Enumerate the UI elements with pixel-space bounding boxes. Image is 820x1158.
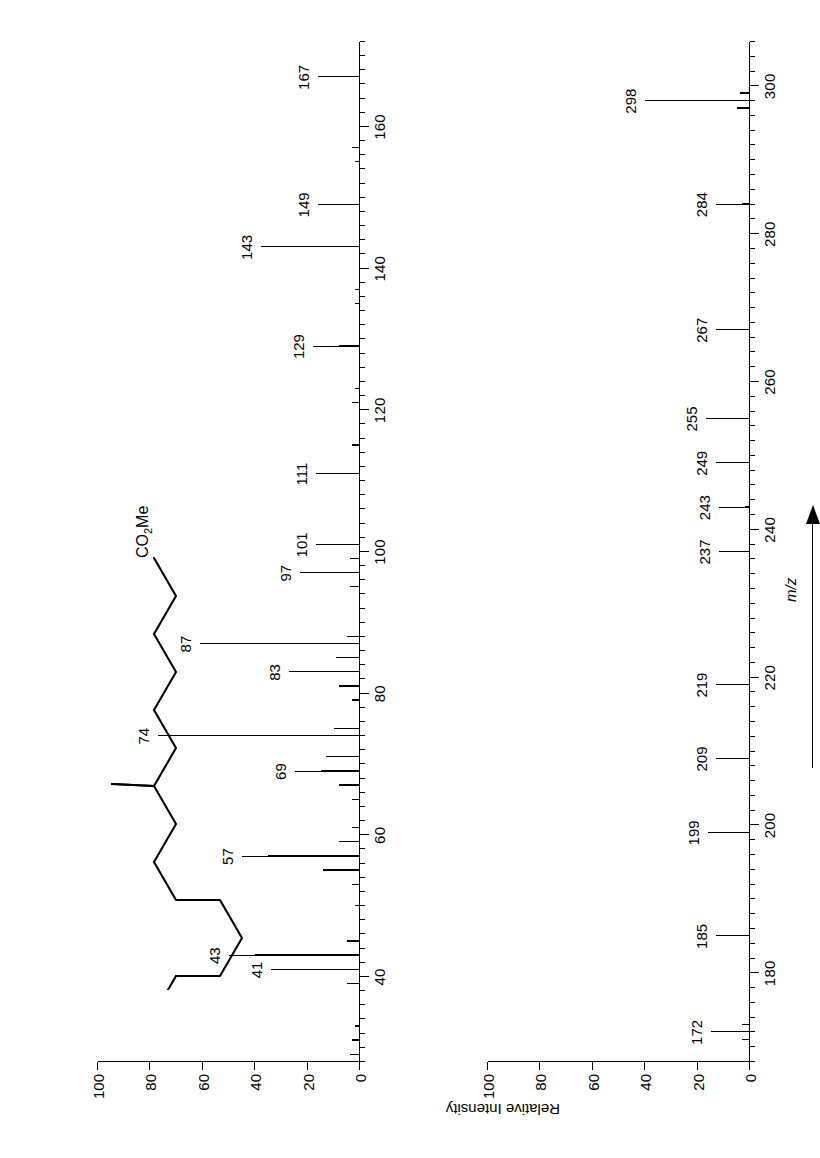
x-axis-minor-tick xyxy=(750,174,755,175)
x-axis-minor-tick xyxy=(360,69,365,70)
x-axis-minor-tick xyxy=(360,650,365,651)
x-axis-minor-tick xyxy=(750,736,755,737)
peak-label-leader xyxy=(318,76,344,77)
x-axis-major-tick xyxy=(750,529,759,530)
spectrum-peak xyxy=(742,1024,750,1025)
x-axis-minor-tick xyxy=(360,877,365,878)
y-axis-tick xyxy=(644,1062,645,1070)
x-axis-minor-tick xyxy=(360,310,365,311)
x-axis-minor-tick xyxy=(360,239,365,240)
x-axis-minor-tick xyxy=(750,765,755,766)
spectrum-peak xyxy=(326,572,360,573)
x-axis-minor-tick xyxy=(360,169,365,170)
spectrum-peak xyxy=(742,758,750,759)
x-axis-minor-tick xyxy=(750,558,755,559)
x-axis-minor-tick xyxy=(750,366,755,367)
x-axis-minor-tick xyxy=(750,322,755,323)
x-axis-minor-tick xyxy=(750,898,755,899)
x-axis-minor-tick xyxy=(360,296,365,297)
y-axis-tick-label: 20 xyxy=(300,1074,315,1108)
peak-label-leader xyxy=(313,346,339,347)
spectrum-peak xyxy=(355,388,360,389)
peak-label-leader xyxy=(261,246,287,247)
x-axis-minor-tick xyxy=(750,396,755,397)
y-axis-tick xyxy=(97,1062,98,1070)
x-axis-minor-tick xyxy=(360,452,365,453)
x-axis-minor-tick xyxy=(360,339,365,340)
spectrum-peak xyxy=(350,558,360,559)
y-axis-tick xyxy=(487,1062,488,1070)
spectrum-peak xyxy=(344,204,360,205)
x-axis-minor-tick xyxy=(360,622,365,623)
peak-label: 149 xyxy=(296,192,311,217)
mz-direction-arrow-head xyxy=(806,505,820,524)
x-axis-major-tick xyxy=(750,824,759,825)
x-axis-minor-tick xyxy=(750,691,755,692)
x-axis-minor-tick xyxy=(750,928,755,929)
x-axis-minor-tick xyxy=(750,780,755,781)
x-axis-minor-tick xyxy=(750,662,755,663)
x-axis-minor-tick xyxy=(750,189,755,190)
x-axis-minor-tick xyxy=(750,618,755,619)
x-axis-major-tick xyxy=(360,976,369,977)
spectrum-peak xyxy=(334,728,360,729)
x-axis-minor-tick xyxy=(750,440,755,441)
x-axis-minor-tick xyxy=(750,958,755,959)
y-axis-tick xyxy=(697,1062,698,1070)
x-axis-minor-tick xyxy=(360,820,365,821)
x-axis-minor-tick xyxy=(360,438,365,439)
spectrum-peak xyxy=(342,473,360,474)
x-axis-minor-tick xyxy=(750,1017,755,1018)
x-axis-minor-tick xyxy=(750,839,755,840)
x-axis-minor-tick xyxy=(750,307,755,308)
x-axis-minor-tick xyxy=(360,707,365,708)
ester-group-text: CO xyxy=(134,534,151,558)
x-axis-minor-tick xyxy=(360,891,365,892)
x-axis-minor-tick xyxy=(360,140,365,141)
x-axis-minor-tick xyxy=(750,337,755,338)
peak-label-leader xyxy=(716,935,742,936)
x-axis-major-tick xyxy=(360,126,369,127)
x-axis-minor-tick xyxy=(360,55,365,56)
y-axis-line xyxy=(488,1061,750,1062)
x-axis-minor-tick xyxy=(360,424,365,425)
spectrum-peak xyxy=(352,799,360,800)
spectrum-peak xyxy=(734,832,750,833)
x-axis-tick-label: 120 xyxy=(372,398,387,424)
x-axis-minor-tick xyxy=(360,934,365,935)
x-axis-major-tick xyxy=(360,409,369,410)
x-axis-minor-tick xyxy=(750,588,755,589)
spectrum-peak xyxy=(339,345,360,346)
x-axis-minor-tick xyxy=(360,254,365,255)
spectrum-peak xyxy=(352,402,360,403)
x-axis-major-tick xyxy=(750,85,759,86)
x-axis-tick-label: 300 xyxy=(762,74,777,100)
chemical-structure-skeleton xyxy=(24,520,274,990)
spectrum-peak xyxy=(350,586,360,587)
peak-label-leader xyxy=(716,462,742,463)
x-axis-minor-tick xyxy=(360,778,365,779)
peak-label: 167 xyxy=(296,65,311,90)
spectrum-peak xyxy=(342,544,360,545)
spectrum-peak xyxy=(355,1025,360,1026)
x-axis-minor-tick xyxy=(750,455,755,456)
peak-label: 172 xyxy=(689,1020,704,1045)
x-axis-tick-label: 100 xyxy=(372,539,387,565)
x-axis-minor-tick xyxy=(360,381,365,382)
x-axis-minor-tick xyxy=(360,282,365,283)
x-axis-minor-tick xyxy=(750,1031,755,1032)
spectrum-peak xyxy=(352,699,360,700)
peak-label: 298 xyxy=(623,89,638,114)
peak-label-leader xyxy=(719,551,745,552)
spectrum-peak xyxy=(352,884,360,885)
y-axis-tick xyxy=(359,1062,360,1070)
spectrum-peak xyxy=(339,841,360,842)
x-axis-minor-tick xyxy=(360,324,365,325)
peak-label-leader xyxy=(318,204,344,205)
spectrum-peak xyxy=(352,147,360,148)
peak-label: 249 xyxy=(694,451,709,476)
peak-label-leader xyxy=(711,1031,737,1032)
x-axis-minor-tick xyxy=(750,484,755,485)
spectrum-peak xyxy=(355,161,360,162)
y-axis-title: Relative Intensity xyxy=(446,1101,560,1118)
